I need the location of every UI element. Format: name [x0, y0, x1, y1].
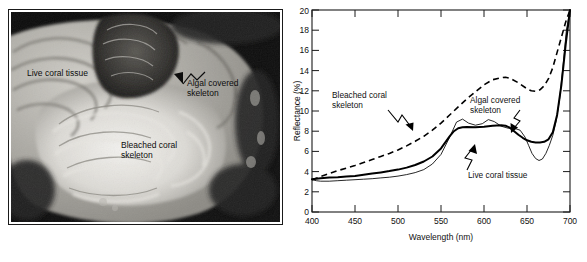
y-axis-title: Reflectance (%) [292, 81, 302, 142]
y-tick-8: 8 [304, 126, 309, 136]
y-tick-16: 16 [300, 45, 310, 55]
x-tick-400: 400 [305, 216, 319, 226]
coral-photograph-panel: Live coral tissue Algal covered skeleton… [8, 9, 283, 225]
y-tick-18: 18 [300, 25, 310, 35]
x-tick-500: 500 [391, 216, 405, 226]
y-tick-2: 2 [304, 187, 309, 197]
x-tick-600: 600 [477, 216, 491, 226]
x-tick-450: 450 [348, 216, 362, 226]
photo-label-algal-covered-skeleton: Algal covered skeleton [187, 78, 239, 98]
plot-frame [312, 10, 570, 212]
y-tick-14: 14 [300, 66, 310, 76]
reflectance-chart-panel: 0 2 4 6 8 10 12 14 16 18 20 400 450 500 … [292, 0, 587, 262]
y-tick-4: 4 [304, 167, 309, 177]
y-tick-6: 6 [304, 146, 309, 156]
annotation-algal-covered-skeleton-line2: skeleton [470, 105, 501, 115]
coral-photo-graphic [11, 12, 280, 222]
figure-root: Live coral tissue Algal covered skeleton… [0, 0, 587, 262]
x-tick-650: 650 [520, 216, 534, 226]
coral-photograph: Live coral tissue Algal covered skeleton… [11, 12, 280, 222]
annotation-bleached-coral-skeleton-line2: skeleton [332, 100, 363, 110]
y-tick-20: 20 [300, 6, 310, 16]
annotation-bleached-coral-skeleton-line1: Bleached coral [332, 90, 387, 100]
reflectance-spectra-chart: 0 2 4 6 8 10 12 14 16 18 20 400 450 500 … [292, 0, 587, 262]
photo-label-live-coral-tissue: Live coral tissue [27, 68, 88, 78]
x-tick-700: 700 [563, 216, 577, 226]
x-axis-title: Wavelength (nm) [409, 232, 474, 242]
x-tick-550: 550 [434, 216, 448, 226]
annotation-algal-covered-skeleton-line1: Algal covered [470, 95, 521, 105]
photo-label-bleached-coral-skeleton: Bleached coral skeleton [121, 140, 177, 160]
x-axis-tick-labels: 400 450 500 550 600 650 700 [305, 216, 577, 226]
annotation-live-coral-tissue: Live coral tissue [468, 170, 528, 180]
